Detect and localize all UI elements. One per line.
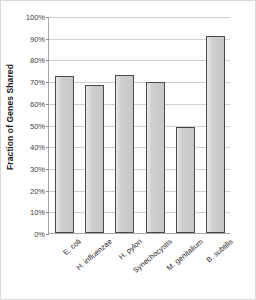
plot-area	[48, 17, 230, 234]
bar	[55, 76, 74, 233]
y-axis-tick-label: 10%	[30, 208, 45, 217]
y-axis-title: Fraction of Genes Shared	[1, 1, 19, 233]
y-axis-tick-label: 20%	[30, 186, 45, 195]
y-axis-tick-label: 60%	[30, 99, 45, 108]
y-axis-tick-label: 40%	[30, 143, 45, 152]
y-axis-tick-label: 100%	[26, 13, 45, 22]
bar	[115, 75, 134, 233]
bar	[146, 82, 165, 233]
bars-group	[49, 17, 230, 233]
y-axis-tick-label: 80%	[30, 56, 45, 65]
x-axis-tick-labels: E. coliH. influenzaeH. pyloriSynechocyst…	[48, 235, 230, 299]
y-axis-tick-label: 50%	[30, 121, 45, 130]
bar	[176, 127, 195, 233]
bar	[206, 36, 225, 233]
y-axis-tick-labels: 0%10%20%30%40%50%60%70%80%90%100%	[19, 17, 47, 234]
y-axis-tick-label: 90%	[30, 34, 45, 43]
y-axis-title-text: Fraction of Genes Shared	[5, 64, 15, 170]
bar-chart-figure: Fraction of Genes Shared 0%10%20%30%40%5…	[0, 0, 256, 300]
y-axis-tick-label: 0%	[34, 230, 45, 239]
y-axis-tick-label: 70%	[30, 78, 45, 87]
y-axis-tick-label: 30%	[30, 164, 45, 173]
bar	[85, 85, 104, 233]
